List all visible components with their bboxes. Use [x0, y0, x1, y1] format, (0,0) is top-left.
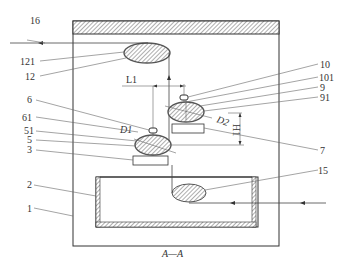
support-block-3	[133, 156, 168, 165]
dim-l1: L1	[126, 74, 137, 85]
tank-wall-bottom	[96, 222, 256, 227]
label-121: 121	[20, 56, 35, 67]
label-61: 61	[22, 112, 32, 123]
label-6: 6	[27, 94, 32, 105]
label-12: 12	[25, 71, 35, 82]
tank-roll-15	[172, 184, 206, 202]
arrow-icon	[153, 85, 157, 88]
arrow-up-icon	[167, 75, 171, 80]
small-roller-6	[149, 128, 157, 133]
top-hatched-band	[73, 21, 279, 34]
section-title: A—A	[161, 248, 184, 259]
leader-7	[204, 128, 318, 150]
label-16: 16	[30, 15, 40, 26]
label-91: 91	[320, 92, 330, 103]
label-10: 10	[320, 59, 330, 70]
leader-12	[40, 58, 126, 76]
leader-3	[36, 150, 133, 160]
leader-9	[200, 87, 318, 106]
arrow-icon	[239, 113, 242, 117]
arrow-left-icon	[38, 41, 43, 45]
label-7: 7	[320, 145, 325, 156]
label-3: 3	[27, 144, 32, 155]
label-2: 2	[27, 179, 32, 190]
top-roll-12	[124, 43, 170, 63]
leader-2	[34, 185, 96, 196]
dim-d2: D2	[214, 113, 230, 128]
lower-roll-5	[135, 135, 171, 155]
tank-wall-right	[252, 177, 256, 227]
leader-121	[40, 52, 124, 61]
label-1: 1	[27, 203, 32, 214]
support-block-upper	[172, 124, 204, 133]
tank-wall-left	[96, 177, 100, 227]
arrow-icon	[180, 85, 184, 88]
arrow-icon	[239, 141, 242, 145]
leader-5	[36, 140, 136, 146]
leader-1	[34, 208, 73, 216]
section-diagram: L1 D2 H1 D1 16 121 12 6 61 51	[0, 0, 346, 270]
label-15: 15	[318, 165, 328, 176]
leader-91	[204, 97, 318, 111]
small-roller-10	[180, 95, 188, 100]
arrow-left-icon	[300, 201, 305, 205]
